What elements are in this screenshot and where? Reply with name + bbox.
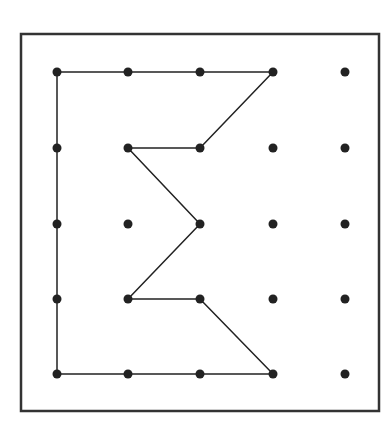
grid-dot-r1-c4: [341, 144, 350, 153]
grid-dot-r2-c4: [341, 220, 350, 229]
grid-dot-r2-c0: [53, 220, 62, 229]
grid-dot-r2-c3: [269, 220, 278, 229]
grid-dot-r0-c4: [341, 68, 350, 77]
grid-dot-r3-c0: [53, 295, 62, 304]
grid-dot-r0-c2: [196, 68, 205, 77]
grid-dot-r3-c4: [341, 295, 350, 304]
grid-dot-r4-c3: [269, 370, 278, 379]
grid-dot-r4-c0: [53, 370, 62, 379]
grid-dot-r4-c1: [124, 370, 133, 379]
grid-dot-r2-c2: [196, 220, 205, 229]
grid-dot-r0-c1: [124, 68, 133, 77]
sigma-polygon: [57, 72, 273, 374]
grid-dot-r3-c2: [196, 295, 205, 304]
geoboard-diagram: [0, 0, 390, 433]
grid-dot-r1-c1: [124, 144, 133, 153]
grid-dot-r1-c2: [196, 144, 205, 153]
grid-dot-r1-c0: [53, 144, 62, 153]
grid-dot-r2-c1: [124, 220, 133, 229]
grid-dot-r0-c0: [53, 68, 62, 77]
dot-grid: [53, 68, 350, 379]
grid-dot-r3-c1: [124, 295, 133, 304]
grid-dot-r1-c3: [269, 144, 278, 153]
grid-dot-r4-c2: [196, 370, 205, 379]
grid-dot-r0-c3: [269, 68, 278, 77]
grid-dot-r3-c3: [269, 295, 278, 304]
grid-dot-r4-c4: [341, 370, 350, 379]
